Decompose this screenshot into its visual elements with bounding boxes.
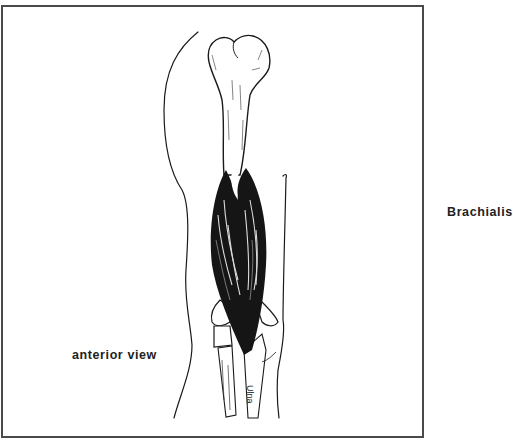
- view-label: anterior view: [72, 348, 157, 362]
- arm-outline-left: [164, 32, 198, 418]
- figure-title: Brachialis: [447, 205, 513, 219]
- ulna-label: Ulna: [245, 385, 255, 404]
- humerus-bone: [208, 35, 269, 175]
- arm-outline-right: [277, 175, 286, 418]
